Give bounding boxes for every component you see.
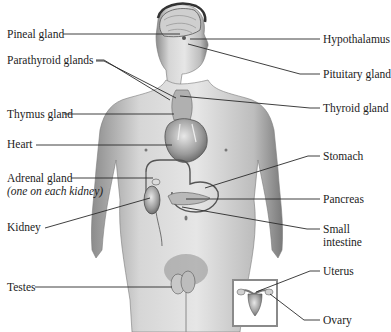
label-pancreas: Pancreas <box>323 193 364 206</box>
ovary-icon <box>237 289 245 295</box>
label-uterus: Uterus <box>323 265 354 278</box>
label-adrenal-note: (one on each kidney) <box>7 185 103 198</box>
label-small-intestine-line2: intestine <box>323 236 362 249</box>
label-pineal-gland: Pineal gland <box>7 28 64 41</box>
label-testes: Testes <box>7 281 36 294</box>
body-illustration <box>0 0 391 332</box>
adrenal-gland-icon <box>152 179 160 185</box>
label-stomach: Stomach <box>323 150 363 163</box>
label-thymus-gland: Thymus gland <box>7 108 73 121</box>
female-reproductive-inset <box>233 280 277 326</box>
kidney-icon <box>144 186 160 214</box>
label-heart: Heart <box>7 138 33 151</box>
thyroid-thymus-icon <box>172 90 192 120</box>
label-parathyroid-glands: Parathyroid glands <box>7 54 94 67</box>
label-pituitary-gland: Pituitary gland <box>323 68 391 81</box>
label-small-intestine: Small <box>323 223 350 236</box>
endocrine-diagram: Pineal gland Parathyroid glands Thymus g… <box>0 0 391 332</box>
label-hypothalamus: Hypothalamus <box>323 33 390 46</box>
label-thyroid-gland: Thyroid gland <box>323 102 388 115</box>
label-ovary: Ovary <box>323 314 352 327</box>
label-kidney: Kidney <box>7 221 41 234</box>
label-adrenal-gland: Adrenal gland <box>7 172 72 185</box>
